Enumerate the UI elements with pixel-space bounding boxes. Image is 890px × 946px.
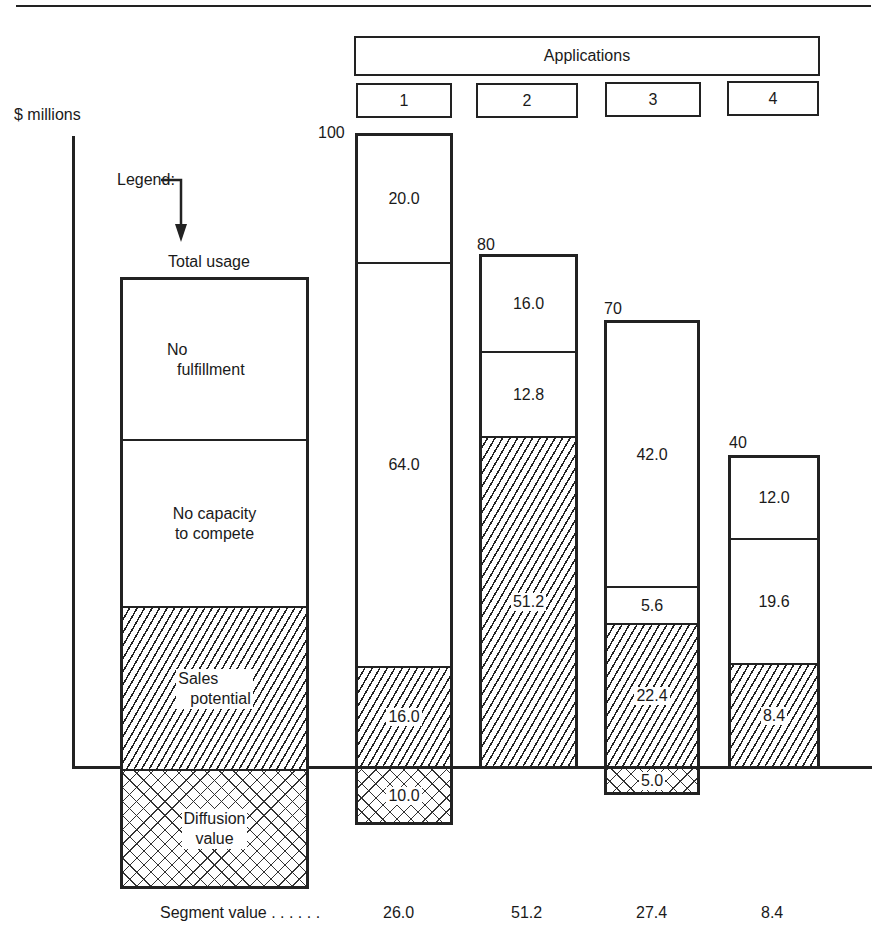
y-axis (72, 136, 75, 768)
segment-value-label: Segment value . . . . . . (160, 904, 320, 922)
app-3-header: 3 (605, 82, 701, 117)
bar-2-seg-2-value: 12.8 (513, 386, 544, 404)
bar-3-seg-3-value: 22.4 (634, 687, 669, 705)
bar-4-no-capacity: 19.6 (731, 538, 817, 663)
bar-1-sales-potential: 16.0 (358, 666, 450, 766)
applications-header: Applications (354, 36, 820, 76)
app-2-label: 2 (523, 92, 532, 110)
bar-2-no-capacity: 12.8 (482, 351, 575, 436)
legend-arrow-icon (160, 170, 220, 246)
bar-1-total: 100 (318, 124, 345, 142)
bar-2: 16.0 12.8 51.2 (479, 254, 578, 769)
bar-2-total: 80 (477, 236, 495, 254)
app-1-label: 1 (400, 92, 409, 110)
legend-no-fulfillment-line2: fulfillment (167, 360, 245, 380)
bar-3-no-fulfillment: 5.6 (607, 586, 697, 623)
legend-sales-line1: Sales (178, 669, 251, 689)
app-4-header: 4 (727, 81, 819, 116)
legend-no-capacity: No capacity to compete (123, 439, 306, 606)
bar-1-diffusion-value: 10.0 (386, 787, 421, 805)
bar-2-seg-3-value: 51.2 (511, 593, 546, 611)
bar-1-no-capacity: 64.0 (358, 262, 450, 666)
bar-1-seg-1-value: 20.0 (388, 190, 419, 208)
bar-4-no-fulfillment: 12.0 (731, 458, 817, 538)
applications-label: Applications (544, 47, 630, 65)
legend-no-capacity-line2: to compete (175, 524, 254, 544)
bar-4-seg-2-value: 19.6 (758, 593, 789, 611)
bar-1: 20.0 64.0 16.0 (355, 133, 453, 769)
app-2-header: 2 (476, 83, 578, 118)
y-axis-label: $ millions (14, 106, 81, 124)
legend-bar: No fulfillment No capacity to compete Sa… (120, 277, 309, 889)
segment-value-2: 51.2 (511, 904, 542, 922)
bar-1-seg-2-value: 64.0 (388, 456, 419, 474)
legend-diffusion-line1: Diffusion (184, 809, 246, 829)
bar-4-sales-potential: 8.4 (731, 663, 817, 766)
bar-2-no-fulfillment: 16.0 (482, 257, 575, 351)
bar-3-total: 70 (604, 300, 622, 318)
app-3-label: 3 (649, 91, 658, 109)
segment-value-3: 27.4 (636, 904, 667, 922)
legend-total-usage: Total usage (168, 252, 250, 272)
legend-no-fulfillment-line1: No (167, 340, 187, 360)
bar-3-seg-1-value: 42.0 (636, 446, 667, 464)
legend-sales-potential: Sales potential (123, 606, 306, 769)
legend-diffusion-value: Diffusion value (123, 769, 306, 886)
bar-3-diffusion: 5.0 (604, 766, 700, 795)
bar-1-seg-3-value: 16.0 (386, 708, 421, 726)
bar-4-seg-3-value: 8.4 (761, 707, 787, 725)
segment-value-4: 8.4 (761, 904, 783, 922)
bar-1-no-fulfillment: 20.0 (358, 136, 450, 262)
legend-no-capacity-line1: No capacity (173, 504, 257, 524)
bar-4-seg-1-value: 12.0 (758, 489, 789, 507)
bar-4: 12.0 19.6 8.4 (728, 455, 820, 769)
segment-value-1: 26.0 (383, 904, 414, 922)
bar-2-seg-1-value: 16.0 (513, 295, 544, 313)
bar-2-sales-potential: 51.2 (482, 436, 575, 766)
bar-3-seg-2-value: 5.6 (641, 597, 663, 615)
app-4-label: 4 (769, 90, 778, 108)
top-rule (16, 5, 871, 7)
bar-3-sales-potential: 22.4 (607, 623, 697, 766)
legend-no-fulfillment: No fulfillment (123, 280, 306, 439)
bar-3: 42.0 5.6 22.4 (604, 320, 700, 769)
bar-4-total: 40 (729, 434, 747, 452)
bar-3-diffusion-value: 5.0 (639, 772, 665, 790)
app-1-header: 1 (356, 83, 452, 118)
legend-sales-line2: potential (178, 689, 251, 709)
bar-1-diffusion: 10.0 (355, 766, 453, 825)
legend-diffusion-line2: value (195, 829, 233, 849)
bar-3-no-capacity: 42.0 (607, 323, 697, 586)
